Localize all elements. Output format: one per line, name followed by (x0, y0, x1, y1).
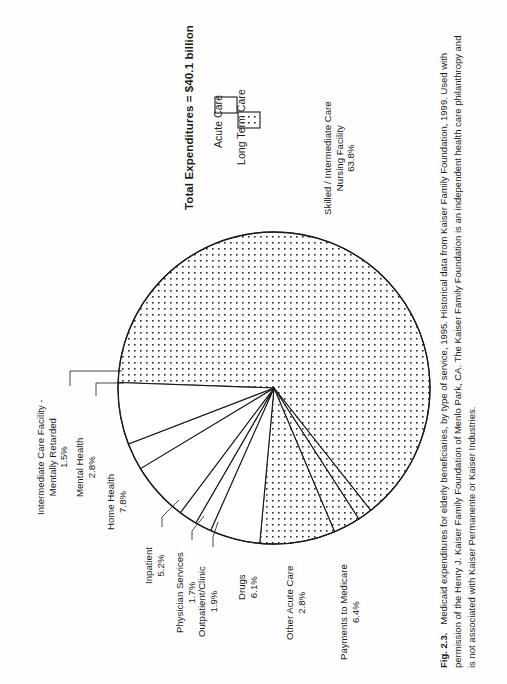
slice-label-physician-services-line1: Physician Services (174, 552, 186, 633)
slice-label-drugs-pct: 6.1% (248, 574, 260, 600)
slice-label-mental-health-line1: Mental Health (74, 438, 86, 497)
slice-label-payments-to-medicare: Payments to Medicare 6.4% (338, 564, 361, 660)
slice-label-inpatient: Inpatient 5.2% (143, 547, 166, 584)
slice-label-outpatient-clinic-pct: 1.9% (208, 566, 220, 637)
legend-label-acute-care: Acute Care (212, 95, 224, 148)
slice-label-icf-mr-line1: Intermediate Care Facility - (35, 399, 47, 515)
slice-label-inpatient-pct: 5.2% (155, 547, 167, 584)
slice-label-home-health-line1: Home Health (105, 474, 117, 530)
slice-label-skilled-nursing-pct: 63.8% (345, 101, 357, 215)
figure-caption: Fig. 2.3. Medicaid expenditures for elde… (437, 28, 478, 668)
slice-label-icf-mr-line2: Mentally Retarded (47, 399, 59, 515)
slice-label-physician-services: Physician Services 1.7% (174, 552, 197, 633)
slice-label-other-acute-care: Other Acute Care 2.8% (284, 566, 307, 640)
slice-label-skilled-nursing-line2: Nursing Facility (334, 101, 346, 215)
slice-label-inpatient-line1: Inpatient (143, 547, 155, 584)
slice-label-other-acute-care-pct: 2.8% (296, 566, 308, 640)
figure-label: Fig. 2.3. (438, 633, 449, 668)
figure-caption-text: Medicaid expenditures for elderly benefi… (438, 36, 477, 668)
figure-page: Total Expenditures = $40.1 billion Acute… (0, 0, 507, 684)
slice-label-other-acute-care-line1: Other Acute Care (284, 566, 296, 640)
slice-label-home-health-pct: 7.8% (117, 474, 129, 530)
slice-label-icf-mr: Intermediate Care Facility - Mentally Re… (35, 399, 70, 515)
slice-label-icf-mr-pct: 1.5% (58, 399, 70, 515)
slice-label-mental-health-pct: 2.8% (86, 438, 98, 497)
slice-label-payments-to-medicare-pct: 6.4% (350, 564, 362, 660)
slice-label-mental-health: Mental Health 2.8% (74, 438, 97, 497)
chart-title: Total Expenditures = $40.1 billion (183, 25, 197, 210)
slice-label-outpatient-clinic: Outpatient/Clinic 1.9% (196, 566, 219, 637)
slice-label-drugs: Drugs 6.1% (236, 574, 259, 600)
slice-label-payments-to-medicare-line1: Payments to Medicare (338, 564, 350, 660)
slice-label-outpatient-clinic-line1: Outpatient/Clinic (196, 566, 208, 637)
slice-label-drugs-line1: Drugs (236, 574, 248, 600)
legend-label-long-term-care: Long Term Care (235, 89, 247, 165)
slice-label-home-health: Home Health 7.8% (105, 474, 128, 530)
slice-label-skilled-nursing-line1: Skilled / Intermediate Care (322, 101, 334, 215)
slice-label-skilled-nursing: Skilled / Intermediate Care Nursing Faci… (322, 101, 357, 215)
